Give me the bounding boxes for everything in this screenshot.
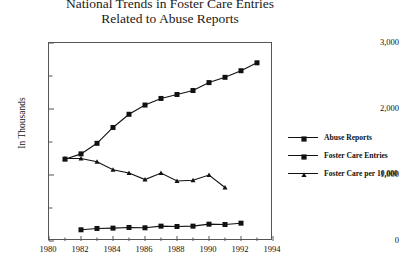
triangle-marker-icon — [300, 171, 308, 179]
data-point — [223, 75, 228, 80]
data-point — [175, 92, 180, 97]
data-point — [79, 151, 84, 156]
data-point — [207, 173, 212, 178]
data-point — [95, 226, 100, 231]
y-tick-label: 2,000 — [359, 103, 403, 113]
data-point — [143, 103, 148, 108]
chart-title-line-1: National Trends in Foster Care Entries — [0, 0, 340, 11]
series-1 — [63, 60, 260, 161]
chart-title-line-2: Related to Abuse Reports — [0, 11, 340, 26]
data-point — [191, 224, 196, 229]
x-tick-label: 1994 — [252, 244, 292, 254]
data-point — [127, 112, 132, 117]
legend-item-3: Foster Care per 10,000 — [288, 167, 400, 181]
y-axis: In Thousands — [0, 0, 48, 259]
data-point — [111, 167, 116, 172]
plot-area — [48, 42, 272, 240]
legend-item-2: Foster Care Entries — [288, 149, 400, 163]
data-point — [239, 68, 244, 73]
data-point — [143, 225, 148, 230]
legend-label: Foster Care Entries — [324, 149, 388, 162]
series-2 — [79, 221, 244, 233]
plot-svg — [49, 43, 273, 241]
data-point — [207, 80, 212, 85]
data-point — [159, 96, 164, 101]
chart-title: National Trends in Foster Care Entries R… — [0, 0, 340, 26]
chart-container: National Trends in Foster Care Entries R… — [0, 0, 403, 259]
legend-label: Abuse Reports — [324, 131, 372, 144]
legend-item-1: Abuse Reports — [288, 131, 400, 145]
data-point — [255, 60, 260, 65]
data-point — [111, 125, 116, 130]
data-point — [159, 171, 164, 176]
chart-legend: Abuse ReportsFoster Care EntriesFoster C… — [288, 131, 400, 185]
y-axis-label: In Thousands — [17, 53, 27, 193]
data-point — [159, 224, 164, 229]
series-3 — [63, 156, 228, 190]
data-point — [95, 141, 100, 146]
data-point — [191, 88, 196, 93]
data-point — [111, 226, 116, 231]
data-point — [79, 227, 84, 232]
square-marker-icon — [300, 153, 308, 161]
data-point — [175, 224, 180, 229]
data-point — [239, 221, 244, 226]
legend-label: Foster Care per 10,000 — [324, 167, 398, 180]
data-point — [127, 225, 132, 230]
y-tick-label: 3,000 — [359, 37, 403, 47]
y-tick-label: 0 — [359, 235, 403, 245]
data-point — [207, 222, 212, 227]
square-marker-icon — [300, 135, 308, 143]
data-point — [223, 222, 228, 227]
